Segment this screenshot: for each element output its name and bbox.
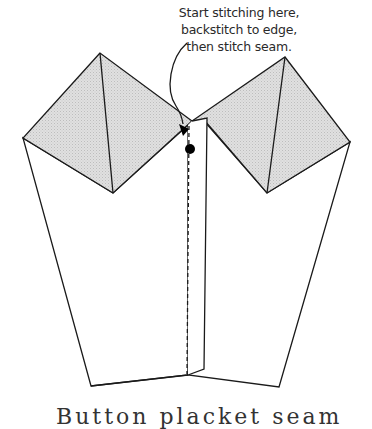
instruction-line-3: then stitch seam. <box>150 38 328 55</box>
stitching-instruction-label: Start stitching here, backstitch to edge… <box>150 4 328 55</box>
instruction-line-2: backstitch to edge, <box>150 21 328 38</box>
instruction-line-1: Start stitching here, <box>150 4 328 21</box>
start-point-dot <box>185 144 195 154</box>
figure-caption: Button placket seam <box>56 404 342 429</box>
